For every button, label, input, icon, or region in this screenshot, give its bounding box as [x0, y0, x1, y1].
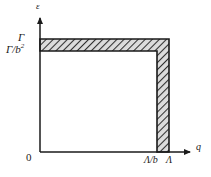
x-tick-label-lambda: Λ — [166, 155, 172, 165]
y-tick-label-gamma: Γ — [18, 32, 24, 43]
rg-shell-figure: ε q Γ Γ/b2 0 Λ/b Λ — [0, 0, 211, 177]
origin-label: 0 — [26, 152, 32, 163]
y-tick-gamma-b-exponent: 2 — [21, 42, 25, 50]
x-axis-label: q — [196, 142, 201, 152]
momentum-shell-region — [40, 39, 169, 152]
y-tick-label-gamma-over-b-squared: Γ/b2 — [6, 44, 24, 55]
y-axis-label: ε — [36, 2, 40, 11]
y-tick-gamma-b-base: Γ/b — [6, 43, 21, 55]
x-tick-label-lambda-over-b: Λ/b — [144, 155, 158, 165]
